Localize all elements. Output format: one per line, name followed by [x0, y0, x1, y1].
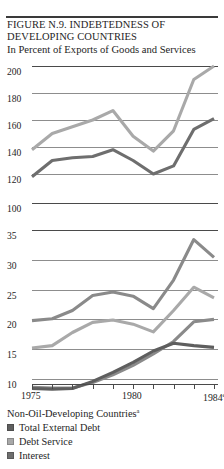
x-axis-label: 1980: [122, 390, 142, 401]
legend-swatch-interest: [7, 452, 14, 459]
x-axis-tick: [133, 385, 134, 389]
series-line-upper-1: [32, 119, 214, 177]
x-axis-tick: [52, 385, 53, 389]
figure-card: FIGURE N.9. INDEBTEDNESS OF DEVELOPING C…: [0, 0, 224, 469]
legend-heading-marker: a: [137, 407, 140, 414]
legend-heading: Non-Oil-Developing Countriesa: [7, 404, 219, 420]
x-axis-tick: [32, 385, 33, 389]
x-axis-tick: [174, 385, 175, 389]
x-axis-tick: [113, 385, 114, 389]
x-axis-tick: [72, 385, 73, 389]
chart-series-layer: [7, 59, 218, 386]
legend-item[interactable]: Debt Service: [7, 434, 219, 448]
figure-title-line-1: FIGURE N.9. INDEBTEDNESS OF: [7, 19, 219, 31]
series-line-lower-2: [32, 319, 214, 388]
legend-item[interactable]: Total External Debt: [7, 420, 219, 434]
chart-plot-area: 200180160140120100353025201510 197519801…: [7, 59, 218, 386]
footnote-partial: [7, 459, 219, 468]
x-axis-label: 1975: [21, 390, 41, 401]
legend-item-label: Debt Service: [19, 435, 72, 448]
series-line-upper-0: [32, 66, 214, 151]
x-axis-tick: [194, 385, 195, 389]
x-axis-line: [32, 384, 218, 385]
legend-item-label: Total External Debt: [19, 421, 100, 434]
legend-swatch-total-external-debt: [7, 424, 14, 431]
figure-title: FIGURE N.9. INDEBTEDNESS OF DEVELOPING C…: [7, 19, 219, 42]
series-line-lower-3: [32, 343, 214, 389]
top-rule: [6, 16, 218, 18]
legend-swatch-debt-service: [7, 438, 14, 445]
x-axis-tick: [153, 385, 154, 389]
x-axis-label: 1984e: [203, 390, 224, 403]
series-line-lower-0: [32, 240, 214, 321]
series-line-lower-1: [32, 287, 214, 348]
chart-legend: Non-Oil-Developing Countriesa Total Exte…: [7, 404, 219, 462]
figure-subtitle: In Percent of Exports of Goods and Servi…: [7, 44, 219, 56]
legend-items: Total External DebtDebt ServiceInterest: [7, 420, 219, 462]
legend-heading-text: Non-Oil-Developing Countries: [7, 408, 137, 419]
x-axis-tick: [214, 385, 215, 389]
x-axis-tick: [93, 385, 94, 389]
figure-title-line-2: DEVELOPING COUNTRIES: [7, 31, 219, 43]
